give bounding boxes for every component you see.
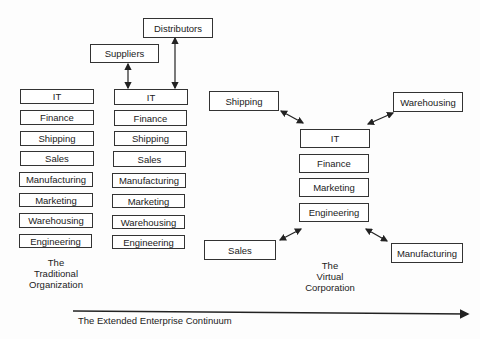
caption-line: Traditional xyxy=(20,268,92,279)
virtual-satellite-shipping: Shipping xyxy=(209,91,279,111)
traditional-box-engineering: Engineering xyxy=(19,234,92,248)
extended-box-shipping: Shipping xyxy=(114,131,187,146)
virtual-core-it: IT xyxy=(300,129,370,148)
diagram-canvas: Suppliers Distributors IT Finance Shippi… xyxy=(0,0,480,339)
caption-line: Virtual xyxy=(294,271,366,282)
virtual-satellite-sales: Sales xyxy=(204,240,276,260)
traditional-box-finance: Finance xyxy=(20,110,94,125)
caption-line: The xyxy=(294,260,366,271)
traditional-box-manufacturing: Manufacturing xyxy=(19,172,93,187)
node-suppliers: Suppliers xyxy=(90,44,159,63)
caption-line: Corporation xyxy=(294,282,366,293)
virtual-core-marketing: Marketing xyxy=(299,178,369,197)
virtual-core-engineering: Engineering xyxy=(299,203,369,222)
caption-line: The xyxy=(20,257,92,268)
extended-box-engineering: Engineering xyxy=(112,235,185,249)
caption-line: Organization xyxy=(20,279,92,290)
traditional-box-sales: Sales xyxy=(20,151,94,166)
traditional-box-marketing: Marketing xyxy=(19,193,93,207)
virtual-satellite-manufacturing: Manufacturing xyxy=(391,243,463,263)
extended-box-finance: Finance xyxy=(114,110,187,126)
extended-box-it: IT xyxy=(114,89,188,105)
continuum-label: The Extended Enterprise Continuum xyxy=(78,315,232,326)
traditional-box-warehousing: Warehousing xyxy=(19,213,93,228)
traditional-box-it: IT xyxy=(20,89,94,104)
extended-box-marketing: Marketing xyxy=(112,194,185,208)
virtual-satellite-warehousing: Warehousing xyxy=(393,92,463,112)
extended-box-warehousing: Warehousing xyxy=(112,215,185,229)
extended-box-sales: Sales xyxy=(113,151,186,167)
traditional-box-shipping: Shipping xyxy=(20,131,94,146)
virtual-core-finance: Finance xyxy=(299,154,369,173)
extended-box-manufacturing: Manufacturing xyxy=(112,173,186,188)
traditional-caption: The Traditional Organization xyxy=(20,257,92,290)
node-distributors: Distributors xyxy=(143,18,213,38)
virtual-caption: The Virtual Corporation xyxy=(294,260,366,293)
